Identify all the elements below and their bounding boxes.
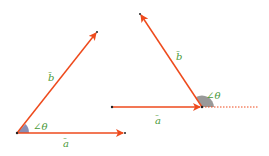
b-endpoint: [96, 31, 98, 33]
obtuse-angle-diagram: ∠θ a ⌢ b ⌢: [111, 13, 258, 126]
vector-b-arrow: [17, 33, 96, 133]
angle-label: ∠θ: [206, 90, 220, 101]
b-endpoint: [139, 13, 141, 15]
a-endpoint: [124, 132, 126, 134]
vector-a-hat: ⌢: [155, 111, 159, 118]
vector-b-hat: ⌢: [48, 68, 52, 75]
vector-b-arrow: [141, 15, 202, 107]
origin-point: [16, 132, 18, 134]
angle-label: ∠θ: [33, 121, 47, 132]
acute-angle-diagram: ∠θ a ⌢ b ⌢: [16, 31, 126, 149]
vector-angle-diagram: ∠θ a ⌢ b ⌢ ∠θ a ⌢ b ⌢: [0, 0, 269, 156]
a-start-point: [111, 106, 113, 108]
vector-b-hat: ⌢: [176, 47, 180, 54]
origin-point: [201, 106, 203, 108]
vector-a-hat: ⌢: [63, 134, 67, 141]
